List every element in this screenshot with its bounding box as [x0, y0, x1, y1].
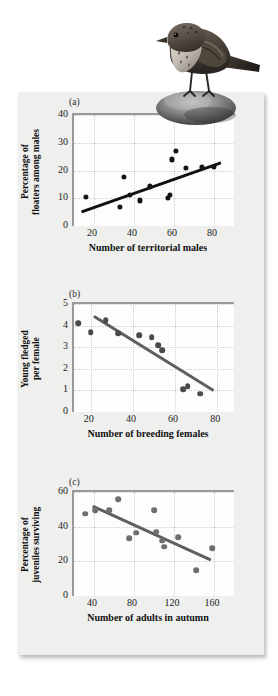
y-tick-label: 0: [46, 405, 68, 416]
y-axis-ticks-b: 012345: [44, 302, 68, 410]
data-point: [175, 534, 181, 540]
plot-area-c: [72, 490, 234, 596]
data-point: [149, 335, 155, 341]
data-point: [92, 507, 98, 513]
trend-line: [92, 505, 211, 561]
x-tick-label: 120: [165, 597, 180, 608]
data-point: [137, 198, 142, 203]
x-tick-label: 80: [127, 597, 137, 608]
data-point: [82, 511, 88, 517]
bird-head: [167, 23, 205, 52]
bird-beak: [156, 37, 167, 43]
panel-label-b: (b): [69, 289, 80, 299]
x-tick-label: 40: [87, 597, 97, 608]
data-point: [88, 329, 94, 335]
figure-card: (a) Percentage of floaters among males 0…: [18, 92, 264, 655]
y-axis-title-c: Percentage of juveniles surviving: [20, 502, 42, 588]
y-tick-label: 1: [46, 383, 68, 394]
data-point: [136, 333, 142, 339]
y-tick-label: 30: [46, 135, 68, 146]
y-tick-label: 3: [46, 340, 68, 351]
plot-area-a: [72, 113, 234, 226]
crown-streaks: [183, 26, 198, 34]
data-point: [121, 174, 126, 179]
data-point: [183, 166, 188, 171]
x-tick-label: 20: [84, 413, 94, 424]
data-point: [185, 383, 191, 389]
bird-tail: [222, 54, 260, 72]
x-tick-label: 60: [167, 227, 177, 238]
y-axis-title-a: Percentage of floaters among males: [20, 126, 42, 218]
data-point: [153, 529, 159, 535]
x-tick-label: 60: [168, 413, 178, 424]
data-point: [167, 192, 172, 197]
y-tick-label: 4: [46, 318, 68, 329]
data-point: [127, 193, 132, 198]
y-tick-label: 60: [46, 485, 68, 496]
data-point: [161, 544, 167, 550]
data-point: [103, 317, 109, 323]
data-point: [106, 507, 112, 513]
y-tick-label: 2: [46, 361, 68, 372]
x-tick-label: 20: [87, 227, 97, 238]
data-point: [211, 165, 216, 170]
y-tick-label: 10: [46, 191, 68, 202]
data-point: [159, 538, 165, 544]
x-axis-title-a: Number of territorial males: [18, 242, 264, 253]
x-axis-ticks-b: 20406080: [72, 413, 232, 427]
data-point: [133, 530, 139, 536]
x-tick-label: 160: [205, 597, 220, 608]
chart-panel-b: (b) Young fledged per female 012345 2040…: [18, 288, 264, 476]
x-axis-ticks-c: 4080120160: [72, 597, 232, 611]
data-point: [169, 157, 174, 162]
x-tick-label: 40: [126, 413, 136, 424]
y-tick-label: 5: [46, 297, 68, 308]
data-point: [193, 567, 199, 573]
x-tick-label: 40: [127, 227, 137, 238]
data-point: [83, 194, 88, 199]
y-axis-title-b: Young fledged per female: [20, 315, 42, 403]
data-points-b: [74, 304, 234, 412]
data-point: [173, 148, 178, 153]
y-axis-ticks-a: 010203040: [44, 113, 68, 224]
data-points-a: [74, 115, 234, 226]
x-axis-title-c: Number of adults in autumn: [18, 612, 264, 623]
data-point: [198, 391, 204, 397]
panel-label-c: (c): [69, 477, 80, 487]
y-axis-ticks-c: 0204060: [44, 490, 68, 594]
bird-eye: [174, 33, 179, 38]
x-tick-label: 80: [207, 227, 217, 238]
bird-body: [170, 28, 231, 74]
y-tick-label: 0: [46, 219, 68, 230]
chart-panel-a: (a) Percentage of floaters among males 0…: [18, 96, 264, 288]
y-tick-label: 40: [46, 108, 68, 119]
data-point: [115, 330, 121, 336]
data-point: [115, 496, 121, 502]
bird-breast: [171, 31, 202, 72]
data-points-c: [74, 492, 234, 596]
y-tick-label: 40: [46, 519, 68, 530]
data-point: [117, 204, 122, 209]
panel-label-a: (a): [69, 97, 80, 107]
data-point: [160, 348, 166, 354]
y-tick-label: 20: [46, 554, 68, 565]
breast-speckles: [175, 41, 190, 66]
y-tick-label: 0: [46, 589, 68, 600]
x-axis-ticks-a: 20406080: [72, 227, 232, 241]
trend-line: [93, 315, 215, 392]
data-point: [151, 507, 157, 513]
plot-area-b: [72, 302, 234, 412]
data-point: [126, 535, 132, 541]
chart-panel-c: (c) Percentage of juveniles surviving 02…: [18, 476, 264, 656]
x-tick-label: 80: [210, 413, 220, 424]
x-axis-title-b: Number of breeding females: [18, 428, 264, 439]
bird-wing: [190, 38, 227, 67]
data-point: [75, 321, 81, 327]
data-point: [209, 546, 215, 552]
y-tick-label: 20: [46, 163, 68, 174]
